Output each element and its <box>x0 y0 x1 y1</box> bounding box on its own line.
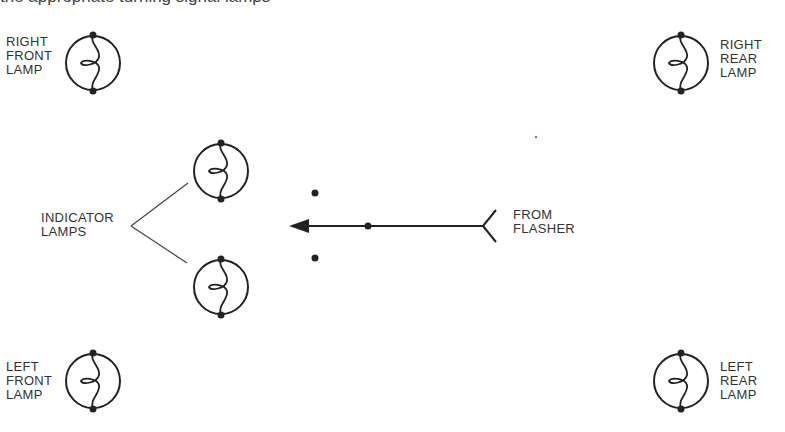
label-line: LAMPS <box>41 225 114 239</box>
label-left-front-lamp: LEFT FRONT LAMP <box>6 360 52 402</box>
label-line: LEFT <box>720 360 757 374</box>
indicator-leader-lines <box>131 183 188 263</box>
label-line: INDICATOR <box>41 211 114 225</box>
label-line: REAR <box>720 52 762 66</box>
lamp-left-front-icon <box>66 350 120 413</box>
label-line: RIGHT <box>720 38 762 52</box>
label-right-front-lamp: RIGHT FRONT LAMP <box>6 35 52 77</box>
label-line: LAMP <box>6 63 52 77</box>
label-line: FLASHER <box>513 222 575 236</box>
lamp-left-rear-icon <box>654 350 708 413</box>
label-line: LEFT <box>6 360 52 374</box>
label-line: LAMP <box>720 388 757 402</box>
label-line: LAMP <box>6 388 52 402</box>
label-from-flasher: FROM FLASHER <box>513 208 575 236</box>
indicator-lamp-top-icon <box>194 140 248 203</box>
lamp-right-front-icon <box>66 32 120 95</box>
label-left-rear-lamp: LEFT REAR LAMP <box>720 360 757 402</box>
label-line: FROM <box>513 208 575 222</box>
label-indicator-lamps: INDICATOR LAMPS <box>41 211 114 239</box>
wiring-diagram <box>0 0 785 432</box>
label-line: RIGHT <box>6 35 52 49</box>
label-right-rear-lamp: RIGHT REAR LAMP <box>720 38 762 80</box>
label-line: FRONT <box>6 49 52 63</box>
terminal-dots <box>312 136 538 262</box>
label-line: LAMP <box>720 66 762 80</box>
indicator-lamp-bottom-icon <box>194 256 248 319</box>
label-line: REAR <box>720 374 757 388</box>
flasher-feed-arrow <box>289 210 496 242</box>
lamp-right-rear-icon <box>654 32 708 95</box>
label-line: FRONT <box>6 374 52 388</box>
